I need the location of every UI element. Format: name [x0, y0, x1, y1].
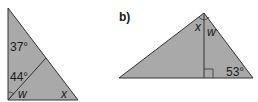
angle-label-53: 53°: [226, 65, 244, 79]
part-label-b: b): [119, 10, 130, 24]
variable-w-a: w: [18, 87, 28, 101]
figure-a: 37° 44° w x: [8, 8, 78, 101]
geometry-diagram: 37° 44° w x b) x w 53°: [0, 0, 258, 102]
variable-w-b: w: [207, 25, 217, 39]
angle-label-44: 44°: [10, 70, 28, 84]
variable-x-b: x: [194, 20, 202, 34]
angle-label-37: 37°: [10, 40, 28, 54]
variable-x-a: x: [60, 87, 68, 101]
figure-b: b) x w 53°: [119, 10, 253, 79]
